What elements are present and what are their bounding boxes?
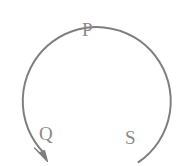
label-s: S — [125, 128, 136, 147]
circular-arrow-graphic — [0, 0, 186, 166]
label-p: P — [82, 20, 93, 39]
figure-canvas: P Q S — [0, 0, 186, 166]
label-q: Q — [39, 124, 53, 143]
